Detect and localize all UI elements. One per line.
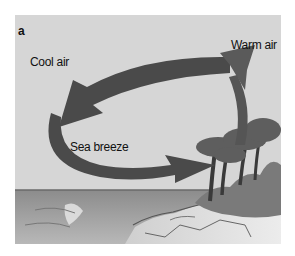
sea-breeze-label: Sea breeze (70, 141, 128, 153)
diagram-frame: a Cool air Warm air Sea breeze (15, 15, 281, 244)
warm-air-label: Warm air (231, 39, 277, 51)
upper-arrow (59, 57, 230, 127)
panel-label: a (18, 24, 25, 38)
cool-air-label: Cool air (30, 56, 69, 68)
